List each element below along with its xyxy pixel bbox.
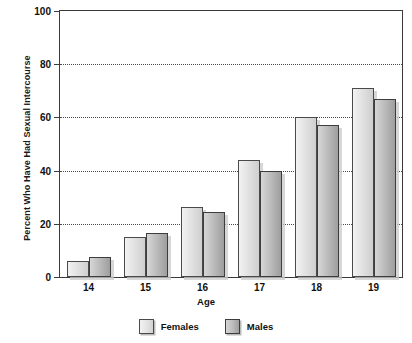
legend-label-males: Males	[247, 321, 273, 332]
chart-legend: FemalesMales	[0, 319, 412, 334]
y-axis-title: Percent Who Have Had Sexual Intercourse	[22, 18, 32, 278]
y-tick-label-20: 20	[11, 218, 51, 229]
x-tick-label-19: 19	[354, 282, 394, 293]
bar-males-age-17	[260, 171, 282, 277]
bar-males-age-16	[203, 212, 225, 277]
y-tick-label-60: 60	[11, 112, 51, 123]
legend-item-males[interactable]: Males	[225, 319, 273, 334]
x-tick-label-14: 14	[69, 282, 109, 293]
y-tick-label-100: 100	[11, 6, 51, 17]
bar-females-age-19	[352, 88, 374, 277]
legend-label-females: Females	[161, 321, 199, 332]
y-tick-label-40: 40	[11, 165, 51, 176]
bars-layer	[60, 11, 402, 277]
x-tick-label-18: 18	[297, 282, 337, 293]
x-tick-label-17: 17	[240, 282, 280, 293]
bar-males-age-18	[317, 125, 339, 277]
y-tick-0	[54, 277, 60, 278]
x-tick-label-16: 16	[183, 282, 223, 293]
bar-females-age-17	[238, 160, 260, 277]
bar-chart: Percent Who Have Had Sexual Intercourse …	[0, 0, 412, 343]
y-tick-label-80: 80	[11, 59, 51, 70]
x-tick-label-15: 15	[126, 282, 166, 293]
legend-item-females[interactable]: Females	[139, 319, 199, 334]
bar-males-age-14	[89, 257, 111, 277]
bar-females-age-18	[295, 117, 317, 277]
bar-females-age-14	[67, 261, 89, 277]
bar-females-age-15	[124, 237, 146, 277]
x-axis-title: Age	[0, 296, 412, 307]
bar-females-age-16	[181, 207, 203, 277]
bar-males-age-19	[374, 99, 396, 277]
bar-males-age-15	[146, 233, 168, 277]
legend-swatch-males	[225, 319, 240, 334]
y-tick-label-0: 0	[11, 272, 51, 283]
legend-swatch-females	[139, 319, 154, 334]
